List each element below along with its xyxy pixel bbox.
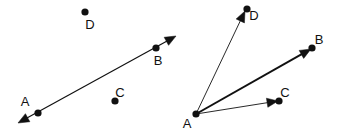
point-label-right-b: B — [315, 32, 324, 47]
point-label-left-c: C — [115, 85, 124, 100]
point-dot-left-a — [34, 109, 41, 116]
point-label-right-c: C — [280, 85, 289, 100]
point-label-left-d: D — [85, 17, 94, 32]
point-label-left-b: B — [154, 53, 163, 68]
panel-right: ABCD — [183, 5, 324, 131]
vector-AB-arrowhead-end — [299, 49, 311, 58]
point-dot-left-b — [152, 44, 159, 51]
line-AB-arrowhead-start — [18, 114, 30, 123]
line-AB — [23, 39, 170, 120]
point-dot-left-d — [81, 8, 88, 15]
vector-AD — [196, 16, 242, 114]
point-label-right-d: D — [249, 8, 258, 23]
panel-left: ABCD — [18, 8, 176, 123]
vector-AB — [196, 52, 306, 114]
vector-AD-arrowhead-end — [236, 11, 245, 23]
point-dot-right-a — [192, 110, 199, 117]
point-label-right-a: A — [183, 116, 192, 131]
point-label-left-a: A — [21, 94, 30, 109]
line-AB-arrowhead-end — [164, 36, 176, 45]
figure-canvas: ABCDABCD — [0, 0, 343, 133]
geometry-figure: ABCDABCD — [0, 0, 343, 133]
